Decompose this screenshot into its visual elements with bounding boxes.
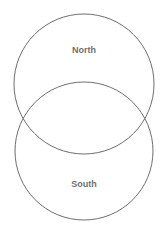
venn-diagram: North South [0, 0, 164, 226]
south-set-circle [15, 82, 153, 220]
north-set-label: North [72, 45, 96, 55]
north-set-circle [14, 14, 154, 154]
south-set-label: South [71, 179, 97, 189]
